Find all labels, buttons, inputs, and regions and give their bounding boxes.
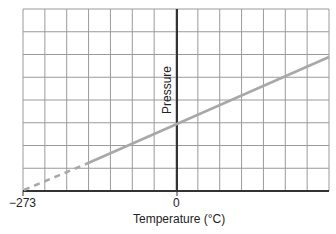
data-line-solid (86, 57, 329, 164)
x-axis-title: Temperature (°C) (133, 213, 225, 225)
x-tick-label-zero: 0 (173, 197, 180, 209)
chart-area: −273 0 Temperature (°C) Pressure (0, 0, 336, 234)
y-axis-title: Pressure (161, 66, 173, 114)
x-tick-label-min: −273 (9, 197, 36, 209)
chart-svg (0, 0, 336, 234)
